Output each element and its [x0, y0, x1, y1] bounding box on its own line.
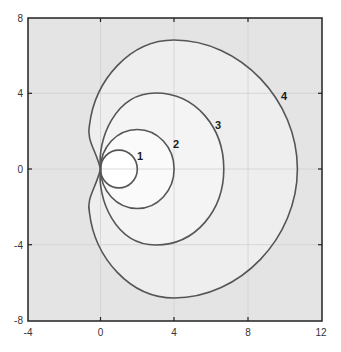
y-tick-label: 8 [17, 13, 23, 24]
x-tick-label: 4 [171, 327, 177, 338]
x-tick-label: 12 [315, 327, 327, 338]
curve-1-label: 1 [137, 150, 143, 162]
y-tick-label: -8 [14, 315, 23, 326]
chart: -4 0 4 8 12 8 4 0 -4 -8 1 2 3 4 [0, 0, 341, 352]
curve-2-label: 2 [173, 138, 179, 150]
y-tick-label: 0 [17, 164, 23, 175]
x-tick-label: -4 [24, 327, 33, 338]
y-tick-label: -4 [14, 240, 23, 251]
x-tick-label: 8 [245, 327, 251, 338]
curve-4-label: 4 [281, 90, 288, 102]
y-tick-label: 4 [17, 88, 23, 99]
curve-3-label: 3 [215, 119, 221, 131]
x-tick-label: 0 [98, 327, 104, 338]
